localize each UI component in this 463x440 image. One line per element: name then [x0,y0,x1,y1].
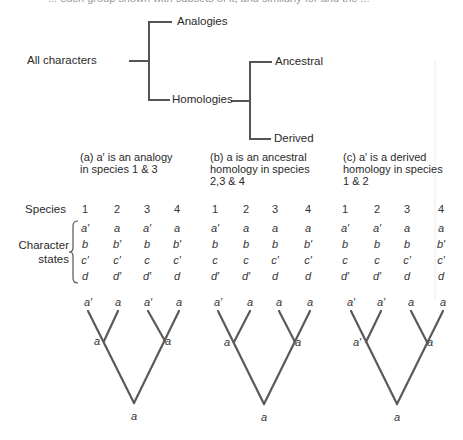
state-cell: d′ [369,270,385,282]
state-cell: a [169,222,185,234]
state-cell: b′ [109,238,125,250]
state-cell: d [433,270,449,282]
tree-tip-label: a [110,296,126,308]
tree-tip-label: a [403,296,419,308]
state-cell: d [77,270,93,282]
tree-inner-node-label: a [422,336,438,348]
species-number-c-3: 3 [399,203,415,215]
caption-a-line1: (a) a′ is an analogy [80,151,173,163]
caption-c-line1: (c) a′ is a derived [343,151,443,163]
tree-inner-node-label: a [290,336,306,348]
state-cell: c′ [399,254,415,266]
tree-tip-label: a [435,296,451,308]
ancestral-label: Ancestral [275,55,323,68]
state-cell: c′ [169,254,185,266]
state-cell: c [139,254,155,266]
state-cell: b [77,238,93,250]
all-characters-label: All characters [27,54,97,67]
caption-c-line2: homology in species [343,163,443,175]
state-cell: b [207,238,223,250]
state-cell: b [267,238,283,250]
state-cell: b [238,238,254,250]
state-cell: d′ [139,270,155,282]
state-cell: d′ [337,270,353,282]
state-cell: a [267,222,283,234]
state-cell: d [399,270,415,282]
state-cell: a [109,222,125,234]
tree-inner-node-label: a [219,336,235,348]
species-number-c-2: 2 [369,203,385,215]
caption-b-line3: 2,3 & 4 [210,175,310,187]
state-cell: a [300,222,316,234]
state-cell: b [399,238,415,250]
state-cell: a′ [369,222,385,234]
tree-inner-node-label: a′ [349,336,365,348]
caption-b-line1: (b) a is an ancestral [210,151,310,163]
state-cell: b [337,238,353,250]
species-number-b-3: 3 [267,203,283,215]
state-cell: a′ [207,222,223,234]
species-number-a-1: 1 [77,203,93,215]
tree-inner-node-label: a [89,335,105,347]
caption-a: (a) a′ is an analogy in species 1 & 3 [80,151,173,175]
state-cell: c′ [109,254,125,266]
tree-inner-node-label: a [160,335,176,347]
species-number-c-4: 4 [433,203,449,215]
character-states-label-line2: states [38,253,69,266]
state-cell: a [399,222,415,234]
state-cell: c′ [433,254,449,266]
tree-tip-label: a′ [140,296,156,308]
state-cell: b [139,238,155,250]
state-cell: d′ [109,270,125,282]
species-number-a-3: 3 [139,203,155,215]
derived-label: Derived [274,132,314,145]
species-number-c-1: 1 [337,203,353,215]
analogies-label: Analogies [177,15,228,28]
species-row-label: Species [25,203,66,216]
tree-tip-label: a [271,296,287,308]
state-cell: d′ [238,270,254,282]
character-states-label-line1: Character [19,239,70,252]
state-cell: b [369,238,385,250]
caption-b: (b) a is an ancestral homology in specie… [210,151,310,187]
species-number-a-4: 4 [169,203,185,215]
tree-tip-label: a [302,296,318,308]
state-cell: d [169,270,185,282]
state-cell: a [238,222,254,234]
state-cell: c′ [300,254,316,266]
caption-b-line2: homology in species [210,163,310,175]
caption-a-line2: in species 1 & 3 [80,163,173,175]
state-cell: b′ [169,238,185,250]
tree-tip-label: a′ [343,296,359,308]
state-cell: d′ [207,270,223,282]
tree-tip-label: a′ [80,296,96,308]
state-cell: c′ [77,254,93,266]
state-cell: c′ [267,254,283,266]
state-cell: b′ [433,238,449,250]
state-cell: b′ [300,238,316,250]
tree-root-label: a [256,411,272,423]
species-number-b-1: 1 [207,203,223,215]
state-cell: c [238,254,254,266]
caption-c-line3: 1 & 2 [343,175,443,187]
state-cell: a′ [139,222,155,234]
tree-tip-label: a′ [373,296,389,308]
state-cell: d [300,270,316,282]
state-cell: a′ [337,222,353,234]
tree-root-label: a [389,411,405,423]
tree-tip-label: a [242,296,258,308]
state-cell: d [267,270,283,282]
state-cell: c [207,254,223,266]
tree-tip-label: a [171,296,187,308]
species-number-b-4: 4 [300,203,316,215]
tree-root-label: a [126,410,142,422]
tree-tip-label: a′ [210,296,226,308]
species-number-a-2: 2 [109,203,125,215]
species-number-b-2: 2 [238,203,254,215]
caption-c: (c) a′ is a derived homology in species … [343,151,443,187]
state-cell: c [369,254,385,266]
state-cell: a [433,222,449,234]
state-cell: c [337,254,353,266]
homologies-label: Homologies [172,93,233,106]
state-cell: a′ [77,222,93,234]
